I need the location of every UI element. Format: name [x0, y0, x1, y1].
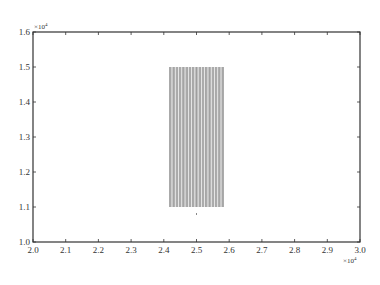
y-tick-label: 1.5	[19, 62, 31, 72]
x-tick-label: 2.9	[322, 245, 334, 255]
x-tick-label: 2.5	[191, 245, 203, 255]
y-tick-label: 1.0	[19, 237, 31, 247]
y-tick-label: 1.3	[19, 132, 31, 142]
x-tick-label: 2.1	[60, 245, 71, 255]
x-tick-label: 2.6	[224, 245, 236, 255]
y-tick-label: 1.6	[19, 27, 31, 37]
y-tick-label: 1.4	[19, 97, 31, 107]
data-points	[196, 213, 197, 215]
x-tick-label: 2.4	[158, 245, 170, 255]
x-tick-label: 2.2	[93, 245, 104, 255]
data-lines	[170, 67, 224, 207]
y-tick-label: 1.1	[19, 202, 30, 212]
y-tick-label: 1.2	[19, 167, 30, 177]
x-tick-label: 2.8	[289, 245, 301, 255]
x-tick-label: 2.7	[256, 245, 268, 255]
x-tick-label: 2.3	[125, 245, 137, 255]
chart: 2.02.12.22.32.42.52.62.72.82.93.0 1.01.1…	[0, 0, 380, 285]
y-exponent-label: ×104	[34, 22, 48, 31]
x-exponent-label: ×104	[343, 256, 357, 265]
x-tick-label: 3.0	[354, 245, 366, 255]
data-point	[196, 213, 197, 215]
